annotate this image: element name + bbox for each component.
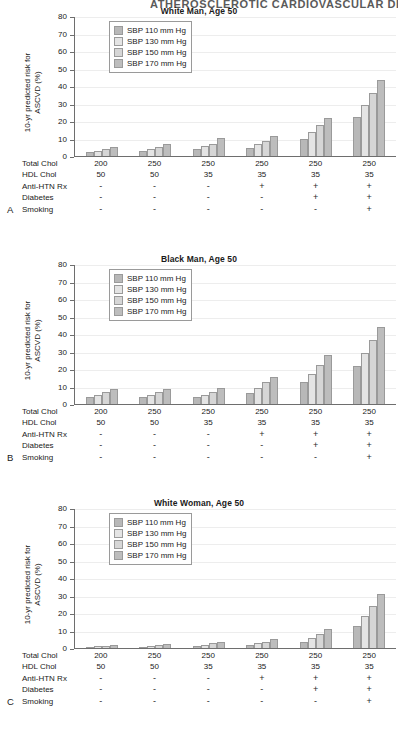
risk-factor-cell: + <box>289 181 343 192</box>
legend-label: SBP 150 mm Hg <box>127 540 186 549</box>
panel-letter: B <box>7 452 13 463</box>
bar-b-g2-s1 <box>139 397 147 404</box>
bar-a-g1-s1 <box>86 152 94 156</box>
bar-b-g1-s1 <box>86 397 94 404</box>
risk-factor-cell: - <box>128 452 182 463</box>
y-tick-label: 70 <box>58 279 67 287</box>
risk-factor-row: ASmoking-----+ <box>0 204 398 215</box>
risk-factor-values: 200250250250250250 <box>74 406 396 417</box>
panel-letter: C <box>7 696 14 707</box>
risk-factor-label: HDL Chol <box>22 661 56 672</box>
risk-factor-cell: 250 <box>181 650 235 661</box>
y-tick-label: 60 <box>58 540 67 548</box>
bar-b-g1-s2 <box>94 395 102 404</box>
risk-factor-cell: + <box>342 440 396 451</box>
risk-factor-cell: - <box>181 673 235 684</box>
legend-item: SBP 110 mm Hg <box>114 517 186 528</box>
risk-factor-cell: + <box>289 440 343 451</box>
risk-factor-cell: 250 <box>181 406 235 417</box>
legend-item: SBP 110 mm Hg <box>114 273 186 284</box>
risk-factor-row: HDL Chol505035353535 <box>0 169 398 180</box>
y-axis-label: 10-yr predicted risk forASCVD (%) <box>22 265 44 415</box>
bar-c-g2-s4 <box>163 644 171 648</box>
risk-factor-cell: - <box>181 192 235 203</box>
risk-factor-label: HDL Chol <box>22 169 56 180</box>
risk-factor-row: HDL Chol505035353535 <box>0 417 398 428</box>
risk-factor-cell: 35 <box>289 169 343 180</box>
risk-factor-cell: - <box>74 673 128 684</box>
bar-a-g2-s4 <box>163 144 171 156</box>
bar-b-g2-s2 <box>147 395 155 404</box>
risk-factor-values: 505035353535 <box>74 169 396 180</box>
bar-a-g4-s2 <box>254 144 262 156</box>
risk-factor-values: -----+ <box>74 696 396 707</box>
risk-factor-cell: - <box>181 181 235 192</box>
risk-factor-cell: 250 <box>289 650 343 661</box>
bar-group <box>343 509 397 648</box>
risk-factor-cell: 35 <box>181 169 235 180</box>
bar-c-g5-s4 <box>324 629 332 648</box>
risk-factor-cell: 250 <box>128 650 182 661</box>
y-tick-label: 70 <box>58 523 67 531</box>
legend-swatch-4 <box>114 307 123 316</box>
risk-factor-values: 200250250250250250 <box>74 158 396 169</box>
bar-b-g6-s1 <box>353 366 361 404</box>
risk-factor-cell: 35 <box>181 661 235 672</box>
panel-c: White Woman, Age 5010-yr predicted risk … <box>0 498 398 707</box>
y-tick-label: 50 <box>58 66 67 74</box>
risk-factor-cell: - <box>289 204 343 215</box>
bar-c-g2-s3 <box>155 645 163 648</box>
bar-group <box>236 509 290 648</box>
risk-factor-cell: - <box>74 452 128 463</box>
risk-factor-cell: - <box>181 204 235 215</box>
legend-item: SBP 170 mm Hg <box>114 58 186 69</box>
axis-wrapper: 80706050403020100SBP 110 mm HgSBP 130 mm… <box>48 265 396 415</box>
bar-b-g4-s3 <box>262 382 270 404</box>
risk-factor-values: ---+++ <box>74 673 396 684</box>
legend-swatch-2 <box>114 285 123 294</box>
risk-factor-cell: - <box>128 440 182 451</box>
y-axis-label-line1: 10-yr predicted risk for <box>24 544 34 624</box>
bar-c-g2-s2 <box>147 646 155 648</box>
y-axis-label-line1: 10-yr predicted risk for <box>24 52 34 132</box>
risk-factor-row: Total Chol200250250250250250 <box>0 406 398 417</box>
risk-factor-cell: - <box>74 440 128 451</box>
risk-factor-table: Total Chol200250250250250250HDL Chol5050… <box>0 650 398 707</box>
legend-swatch-1 <box>114 518 123 527</box>
bar-b-g5-s3 <box>316 365 324 404</box>
risk-factor-values: -----+ <box>74 204 396 215</box>
y-tick-label: 30 <box>58 593 67 601</box>
risk-factor-row: Total Chol200250250250250250 <box>0 158 398 169</box>
risk-factor-cell: + <box>289 429 343 440</box>
legend-swatch-3 <box>114 540 123 549</box>
risk-factor-label: Total Chol <box>22 158 58 169</box>
bar-a-g1-s3 <box>102 149 110 156</box>
bar-c-g3-s3 <box>209 643 217 648</box>
bar-c-g6-s4 <box>377 594 385 648</box>
risk-factor-cell: 200 <box>74 650 128 661</box>
plot-area: 10-yr predicted risk forASCVD (%)8070605… <box>0 509 398 649</box>
y-tick-label: 10 <box>58 384 67 392</box>
risk-factor-cell: + <box>342 684 396 695</box>
risk-factor-cell: + <box>342 192 396 203</box>
bar-a-g5-s4 <box>324 118 332 156</box>
y-tick-container: 80706050403020100 <box>48 509 70 649</box>
y-tick-label: 80 <box>58 13 67 21</box>
y-tick-label: 10 <box>58 136 67 144</box>
risk-factor-cell: - <box>289 452 343 463</box>
bar-b-g6-s3 <box>369 340 377 404</box>
risk-factor-cell: - <box>74 684 128 695</box>
bar-c-g4-s3 <box>262 642 270 648</box>
risk-factor-cell: 200 <box>74 158 128 169</box>
legend-label: SBP 150 mm Hg <box>127 48 186 57</box>
risk-factor-cell: 35 <box>289 661 343 672</box>
risk-factor-cell: - <box>128 684 182 695</box>
risk-factor-cell: - <box>128 429 182 440</box>
legend-swatch-1 <box>114 26 123 35</box>
risk-factor-cell: 250 <box>128 158 182 169</box>
legend-swatch-3 <box>114 296 123 305</box>
risk-factor-label: Total Chol <box>22 650 58 661</box>
risk-factor-cell: 35 <box>342 417 396 428</box>
risk-factor-table: Total Chol200250250250250250HDL Chol5050… <box>0 406 398 463</box>
plot-area: 10-yr predicted risk forASCVD (%)8070605… <box>0 17 398 157</box>
